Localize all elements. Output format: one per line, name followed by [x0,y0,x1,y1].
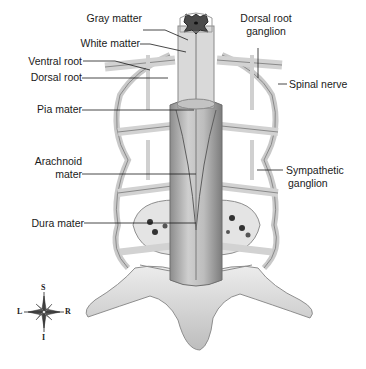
label-pia-mater: Pia mater [0,103,82,115]
label-dorsal-root-ganglion-line1: Dorsal root [228,12,304,24]
compass-right: R [65,307,71,316]
label-sympathetic-ganglion-line1: Sympathetic [286,164,344,176]
compass-superior: S [41,283,45,292]
label-gray-matter: Gray matter [40,12,142,24]
label-dorsal-root-ganglion-line2: ganglion [228,25,304,37]
compass-left: L [17,307,22,316]
label-white-matter: White matter [38,37,140,49]
label-dorsal-root: Dorsal root [0,71,82,83]
label-arachnoid-mater-line2: mater [0,168,82,180]
label-arachnoid-mater-line1: Arachnoid [0,155,82,167]
label-ventral-root: Ventral root [0,55,82,67]
label-spinal-nerve: Spinal nerve [289,78,347,90]
label-sympathetic-ganglion-line2: ganglion [288,177,328,189]
spinal-cord-diagram: Gray matter White matter Ventral root Do… [0,0,366,369]
compass-inferior: I [42,333,45,342]
label-dura-mater: Dura mater [0,217,84,229]
compass-rose [24,292,64,332]
